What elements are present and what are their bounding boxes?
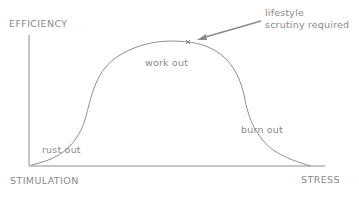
callout-line-1: lifestyle bbox=[265, 7, 304, 18]
rust-out-label: rust out bbox=[42, 144, 81, 155]
callout-line-2: scrutiny required bbox=[265, 19, 349, 30]
work-out-label: work out bbox=[145, 57, 188, 68]
burn-out-label: burn out bbox=[241, 124, 283, 135]
diagram-canvas bbox=[0, 0, 359, 201]
y-axis-label: EFFICIENCY bbox=[9, 18, 68, 29]
callout-arrow-icon bbox=[197, 21, 261, 40]
x-axis-label-left: STIMULATION bbox=[10, 175, 79, 186]
x-axis-label-right: STRESS bbox=[301, 174, 340, 185]
